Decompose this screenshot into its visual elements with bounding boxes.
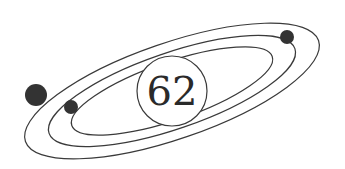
orbit-diagram: 62: [0, 0, 345, 169]
center-number: 62: [147, 68, 198, 114]
planet-large: [25, 84, 47, 106]
planet-medium: [64, 100, 78, 114]
planet-small: [280, 30, 294, 44]
